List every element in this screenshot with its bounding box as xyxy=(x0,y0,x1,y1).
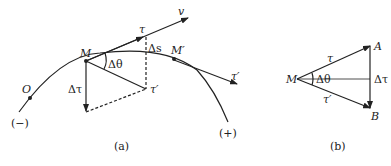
label-plus: (+) xyxy=(219,127,237,140)
point-M-prime xyxy=(172,57,176,61)
point-O xyxy=(28,96,32,100)
delta-theta-arc xyxy=(104,53,106,69)
label-tau-prime: τ′ xyxy=(150,83,159,96)
diagram: v τ Δs M M′ Δθ Δτ τ′ τ′ O (−) (+) (a) M … xyxy=(0,0,391,166)
b-label-M: M xyxy=(285,73,298,86)
caption-b: (b) xyxy=(330,140,346,153)
label-delta-tau: Δτ xyxy=(68,83,82,96)
label-M-prime: M′ xyxy=(170,44,185,57)
b-label-delta-tau: Δτ xyxy=(374,73,388,86)
b-tau-prime-vector xyxy=(297,79,370,108)
trajectory-curve xyxy=(19,51,228,122)
b-label-delta-theta: Δθ xyxy=(316,73,331,86)
b-label-B: B xyxy=(370,110,379,123)
figure-a xyxy=(19,18,237,122)
dashed-diagonal xyxy=(86,89,146,112)
label-O: O xyxy=(22,83,31,96)
figure-b xyxy=(297,46,370,108)
caption-a: (a) xyxy=(114,140,129,153)
label-delta-theta: Δθ xyxy=(108,58,123,71)
b-label-A: A xyxy=(373,40,382,53)
b-tau-vector xyxy=(297,46,370,79)
label-tau: τ xyxy=(139,23,146,36)
label-v: v xyxy=(178,5,185,18)
b-label-tau: τ xyxy=(327,52,334,65)
label-delta-s: Δs xyxy=(148,42,162,55)
label-M: M xyxy=(79,47,92,60)
diagram-svg: v τ Δs M M′ Δθ Δτ τ′ τ′ O (−) (+) (a) M … xyxy=(0,0,391,166)
label-tau-prime-end: τ′ xyxy=(231,70,240,83)
b-label-tau-prime: τ′ xyxy=(323,93,332,106)
label-minus: (−) xyxy=(11,117,29,130)
